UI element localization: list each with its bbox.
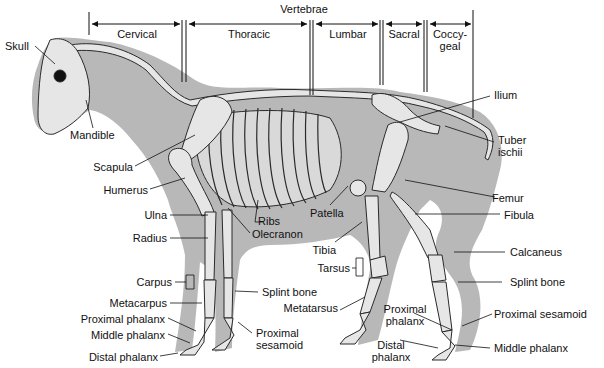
vertebrae-sacral-label: Sacral [384,28,424,40]
label-skull: Skull [5,40,29,52]
label-hind-middle-phalanx: Middle phalanx [494,342,568,354]
label-hind-proximal-phalanx-line2: phalanx [380,315,430,327]
label-olecranon: Olecranon [252,228,303,240]
label-fore-distal-phalanx: Distal phalanx [40,351,158,363]
label-hind-proximal-phalanx-line1: Proximal [380,303,430,315]
label-mandible: Mandible [70,129,115,141]
label-fore-splint-bone: Splint bone [262,286,317,298]
label-metacarpus: Metacarpus [80,297,167,309]
label-hind-proximal-sesamoid: Proximal sesamoid [494,308,587,320]
label-metatarsus: Metatarsus [268,302,338,314]
label-fore-middle-phalanx: Middle phalanx [40,329,165,341]
label-scapula: Scapula [60,161,133,173]
label-ribs: Ribs [258,215,280,227]
label-hind-distal-phalanx-line1: Distal [368,339,414,351]
label-humerus: Humerus [60,184,148,196]
label-calcaneus: Calcaneus [510,246,562,258]
vertebrae-lumbar-label: Lumbar [316,28,380,40]
label-tuber-ischii-line2: ischii [498,146,522,158]
label-ilium: Ilium [494,89,517,101]
label-fore-proximal-phalanx: Proximal phalanx [40,313,165,325]
label-fibula: Fibula [504,209,534,221]
label-radius: Radius [90,232,167,244]
vertebrae-title: Vertebrae [264,3,344,15]
label-fore-proximal-sesamoid-line1: Proximal [256,327,299,339]
vertebrae-thoracic-label: Thoracic [189,28,309,40]
label-hind-distal-phalanx-line2: phalanx [366,351,416,363]
label-tarsus: Tarsus [290,262,350,274]
label-carpus: Carpus [100,276,172,288]
vertebrae-cervical-label: Cervical [92,28,182,40]
label-fore-proximal-sesamoid-line2: sesamoid [256,339,303,351]
label-tibia: Tibia [300,244,336,256]
horse-skeleton-diagram: Vertebrae Cervical Thoracic Lumbar Sacra… [0,0,604,368]
vertebrae-coccygeal-label-line2: geal [428,40,472,52]
eye-socket [54,70,66,82]
vertebrae-coccygeal-label-line1: Coccy- [428,28,472,40]
label-femur: Femur [492,192,524,204]
label-ulna: Ulna [100,209,167,221]
label-hind-splint-bone: Splint bone [510,276,565,288]
patella-bone [350,180,366,196]
label-patella: Patella [310,207,344,219]
label-tuber-ischii-line1: Tuber [498,134,526,146]
